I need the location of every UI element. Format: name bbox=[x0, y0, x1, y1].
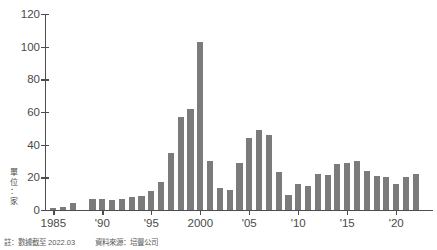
x-axis-tick-label: '20 bbox=[389, 217, 404, 229]
bar-chart-figure: 單 位 ： 家 020406080100120 1985'90'952000'0… bbox=[0, 0, 437, 250]
bar bbox=[295, 184, 301, 210]
bar bbox=[383, 177, 389, 210]
bar bbox=[354, 161, 360, 210]
footnote-note: 註：數據截至 2022.03 bbox=[4, 236, 75, 247]
y-axis-unit-label: 單 位 ： 家 bbox=[7, 168, 21, 206]
bar bbox=[266, 135, 272, 210]
x-axis-tick-mark bbox=[396, 210, 397, 215]
bar bbox=[178, 117, 184, 210]
bar bbox=[236, 163, 242, 210]
bar bbox=[315, 174, 321, 210]
x-axis-tick-label: '10 bbox=[291, 217, 306, 229]
bar-series bbox=[45, 14, 433, 210]
bar bbox=[70, 203, 76, 210]
x-axis-tick-mark bbox=[347, 210, 348, 215]
bar bbox=[168, 153, 174, 210]
x-axis-tick-label: '90 bbox=[95, 217, 110, 229]
bar bbox=[334, 164, 340, 210]
bar bbox=[246, 138, 252, 210]
bar bbox=[256, 130, 262, 210]
bar bbox=[325, 175, 331, 210]
x-axis-tick-label: '95 bbox=[144, 217, 159, 229]
x-axis-tick-label: '05 bbox=[242, 217, 257, 229]
bar bbox=[393, 184, 399, 210]
x-axis-tick-mark bbox=[298, 210, 299, 215]
x-axis-tick-mark bbox=[102, 210, 103, 215]
x-axis-tick-mark bbox=[200, 210, 201, 215]
x-axis-tick-label: 2000 bbox=[188, 217, 214, 229]
y-axis-tick-label: 80 bbox=[27, 73, 40, 85]
bar bbox=[217, 188, 223, 210]
bar bbox=[138, 196, 144, 210]
x-axis-tick-label: 1985 bbox=[41, 217, 67, 229]
bar bbox=[227, 190, 233, 210]
x-axis-tick-mark bbox=[151, 210, 152, 215]
bar bbox=[109, 200, 115, 210]
bar bbox=[129, 197, 135, 210]
bar bbox=[99, 199, 105, 210]
bar bbox=[89, 199, 95, 210]
y-axis-tick-label: 20 bbox=[27, 171, 40, 183]
bar bbox=[276, 172, 282, 210]
y-axis-tick-label: 40 bbox=[27, 139, 40, 151]
bar bbox=[207, 161, 213, 210]
bar bbox=[158, 182, 164, 210]
bar bbox=[403, 177, 409, 210]
bar bbox=[374, 176, 380, 210]
bar bbox=[187, 109, 193, 210]
bar bbox=[148, 191, 154, 210]
y-axis-tick-mark bbox=[41, 210, 49, 211]
bar bbox=[285, 195, 291, 210]
y-axis-tick-label: 120 bbox=[21, 8, 40, 20]
footnotes: 註：數據截至 2022.03 資料來源：培豐公司 bbox=[4, 236, 158, 247]
x-axis-tick-mark bbox=[53, 210, 54, 215]
bar bbox=[60, 207, 66, 210]
bar bbox=[364, 171, 370, 210]
y-axis-tick-label: 100 bbox=[21, 41, 40, 53]
x-axis-tick-mark bbox=[249, 210, 250, 215]
bar bbox=[344, 163, 350, 210]
y-axis-tick-label: 0 bbox=[34, 204, 40, 216]
y-axis-tick-label: 60 bbox=[27, 106, 40, 118]
plot-area: 020406080100120 1985'90'952000'05'10'15'… bbox=[45, 14, 433, 211]
bar bbox=[197, 42, 203, 210]
bar bbox=[305, 186, 311, 211]
bar bbox=[119, 199, 125, 210]
bar bbox=[413, 174, 419, 210]
x-axis-tick-label: '15 bbox=[340, 217, 355, 229]
footnote-source: 資料來源：培豐公司 bbox=[95, 236, 158, 247]
bar bbox=[50, 208, 56, 210]
